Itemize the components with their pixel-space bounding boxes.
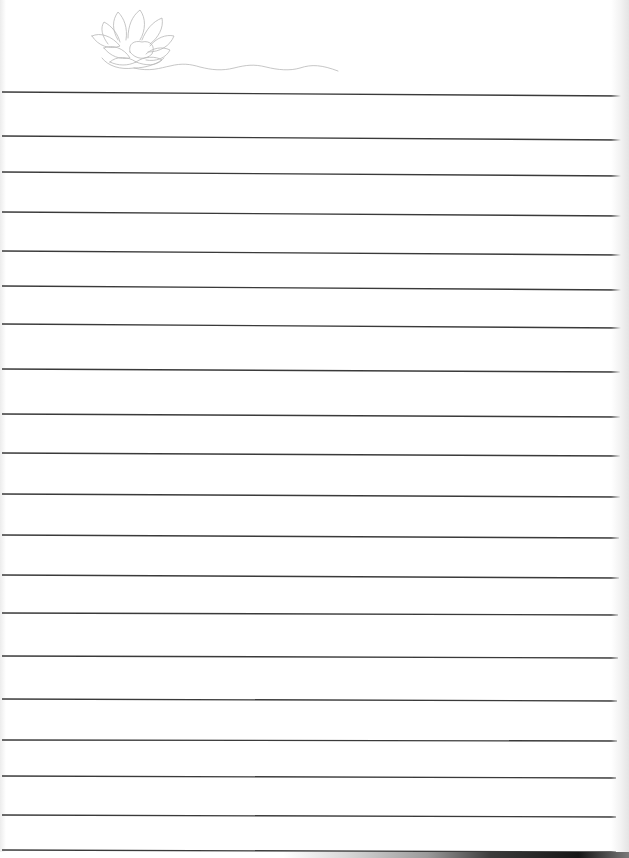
ruled-line bbox=[2, 699, 617, 701]
ruled-line bbox=[2, 414, 620, 417]
ruled-line bbox=[2, 776, 616, 778]
ruled-line bbox=[2, 212, 622, 216]
ruled-line bbox=[2, 740, 617, 741]
ruled-line bbox=[2, 286, 622, 290]
ruled-line bbox=[2, 92, 622, 96]
ruled-line bbox=[2, 136, 622, 140]
page-right-shadow bbox=[611, 0, 629, 858]
ruled-line bbox=[2, 815, 616, 817]
ruled-line bbox=[2, 172, 622, 176]
notepaper-page bbox=[0, 0, 629, 858]
ruled-line bbox=[2, 535, 619, 538]
ruled-line bbox=[2, 251, 622, 255]
ruled-line bbox=[2, 656, 618, 658]
ruled-line bbox=[2, 494, 620, 497]
ruled-line bbox=[2, 613, 618, 615]
ruled-lines bbox=[0, 0, 629, 858]
ruled-line bbox=[2, 575, 619, 578]
page-bottom-edge bbox=[0, 852, 629, 858]
ruled-line bbox=[2, 324, 622, 328]
ruled-line bbox=[2, 453, 620, 456]
ruled-line bbox=[2, 369, 620, 372]
